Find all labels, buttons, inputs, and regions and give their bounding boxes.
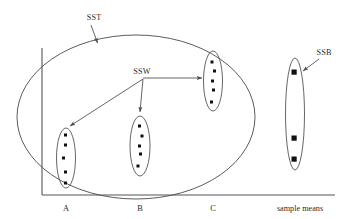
ssw-annotation-group: SSW xyxy=(70,67,202,126)
group-A-point xyxy=(64,134,67,137)
sample-mean-point xyxy=(292,70,297,75)
x-axis-label-a: A xyxy=(63,204,69,213)
group-C xyxy=(204,51,223,111)
sample-means-ellipse xyxy=(286,58,305,170)
ssb-label: SSB xyxy=(316,48,332,57)
ssb-arrow xyxy=(303,59,319,71)
group-A-point xyxy=(64,171,67,174)
group-C-point xyxy=(213,70,216,73)
group-C-point xyxy=(211,61,214,64)
ssw-arrow-to-group-A xyxy=(70,79,143,126)
group-C-point xyxy=(210,101,213,104)
group-A-ellipse xyxy=(57,128,76,188)
sample-mean-point xyxy=(292,136,297,141)
axis-labels-group: A B C sample means xyxy=(63,204,323,213)
group-B xyxy=(130,116,150,176)
sample-mean-point xyxy=(292,157,297,162)
diagram-canvas: SST SSW SSB A B C sample means xyxy=(0,0,342,219)
sst-annotation-group: SST xyxy=(87,13,102,43)
ssw-label: SSW xyxy=(133,67,151,76)
group-sample-means xyxy=(286,58,305,170)
group-A-point xyxy=(64,182,67,185)
x-axis-label-b: B xyxy=(137,204,143,213)
sample-means-caption: sample means xyxy=(277,204,323,213)
group-B-point xyxy=(138,125,141,128)
ssw-arrow-to-group-B xyxy=(140,79,143,112)
group-A xyxy=(57,128,76,188)
group-B-point xyxy=(139,153,142,156)
axes-group xyxy=(42,48,335,195)
group-C-point xyxy=(211,80,214,83)
group-C-point xyxy=(212,89,215,92)
sst-label: SST xyxy=(87,13,102,22)
group-B-point xyxy=(137,165,140,168)
group-B-point xyxy=(141,135,144,138)
x-axis-label-c: C xyxy=(210,204,216,213)
group-B-point xyxy=(138,145,141,148)
anova-diagram-figure: SST SSW SSB A B C sample means xyxy=(0,0,342,219)
group-A-point xyxy=(64,144,67,147)
ssb-annotation-group: SSB xyxy=(303,48,332,71)
group-A-point xyxy=(62,157,65,160)
